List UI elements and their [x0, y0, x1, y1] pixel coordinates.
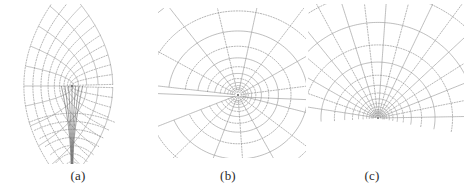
panel-b-caption: (b): [198, 168, 258, 184]
figure-canvas: (a) (b) (c): [0, 0, 468, 190]
panel-c-caption: (c): [342, 168, 402, 184]
panel-a: [6, 4, 150, 164]
panel-c: [308, 4, 464, 162]
panel-b: [158, 8, 306, 158]
panel-a-caption: (a): [48, 168, 108, 184]
